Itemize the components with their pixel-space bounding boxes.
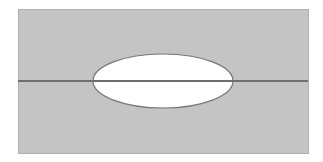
diagram-canvas — [0, 0, 323, 162]
